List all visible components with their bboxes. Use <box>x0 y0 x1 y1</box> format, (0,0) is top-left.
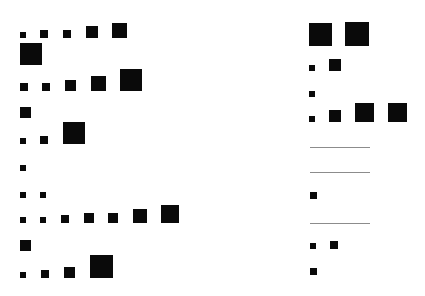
square-marker <box>309 65 315 71</box>
square-glyph-diagram <box>0 0 425 296</box>
square-marker <box>91 76 106 91</box>
square-marker <box>84 213 94 223</box>
square-marker <box>309 91 315 97</box>
square-marker <box>20 240 31 251</box>
divider-line <box>310 223 370 224</box>
square-marker <box>108 213 118 223</box>
square-marker <box>65 80 76 91</box>
square-marker <box>388 103 407 122</box>
square-marker <box>161 205 179 223</box>
square-marker <box>329 59 341 71</box>
square-marker <box>310 192 317 199</box>
divider-line <box>310 147 370 148</box>
square-marker <box>20 43 42 65</box>
square-marker <box>20 272 26 278</box>
square-marker <box>40 217 46 223</box>
square-marker <box>20 138 26 144</box>
square-marker <box>310 243 316 249</box>
square-marker <box>310 268 317 275</box>
square-marker <box>42 83 50 91</box>
square-marker <box>120 69 142 91</box>
divider-line <box>310 172 370 173</box>
square-marker <box>40 30 48 38</box>
square-marker <box>309 23 332 46</box>
square-marker <box>63 30 71 38</box>
square-marker <box>329 110 341 122</box>
square-marker <box>20 107 31 118</box>
square-marker <box>41 270 49 278</box>
square-marker <box>20 217 26 223</box>
square-marker <box>309 116 315 122</box>
square-marker <box>40 136 48 144</box>
square-marker <box>112 23 127 38</box>
square-marker <box>64 267 75 278</box>
square-marker <box>20 192 26 198</box>
square-marker <box>20 83 28 91</box>
square-marker <box>40 192 46 198</box>
square-marker <box>355 103 374 122</box>
square-marker <box>133 209 147 223</box>
square-marker <box>20 32 26 38</box>
square-marker <box>345 22 369 46</box>
square-marker <box>63 122 85 144</box>
square-marker <box>90 255 113 278</box>
square-marker <box>61 215 69 223</box>
square-marker <box>330 241 338 249</box>
square-marker <box>20 165 26 171</box>
square-marker <box>86 26 98 38</box>
